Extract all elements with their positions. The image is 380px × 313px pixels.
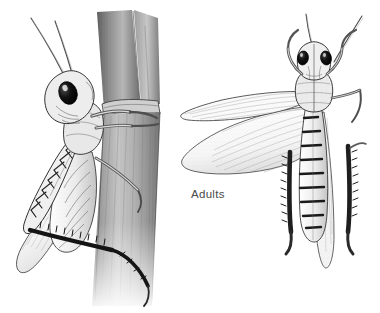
figure-caption: Adults: [191, 188, 225, 200]
illustration-plate: [0, 0, 380, 313]
